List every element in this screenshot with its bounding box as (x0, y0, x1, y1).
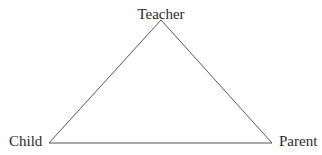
node-label-teacher: Teacher (137, 6, 184, 22)
node-label-parent: Parent (279, 133, 318, 149)
triangle-diagram: Teacher Child Parent (0, 0, 322, 155)
node-label-child: Child (9, 133, 43, 149)
edge-teacher-parent (161, 20, 272, 143)
edge-child-teacher (49, 20, 161, 143)
